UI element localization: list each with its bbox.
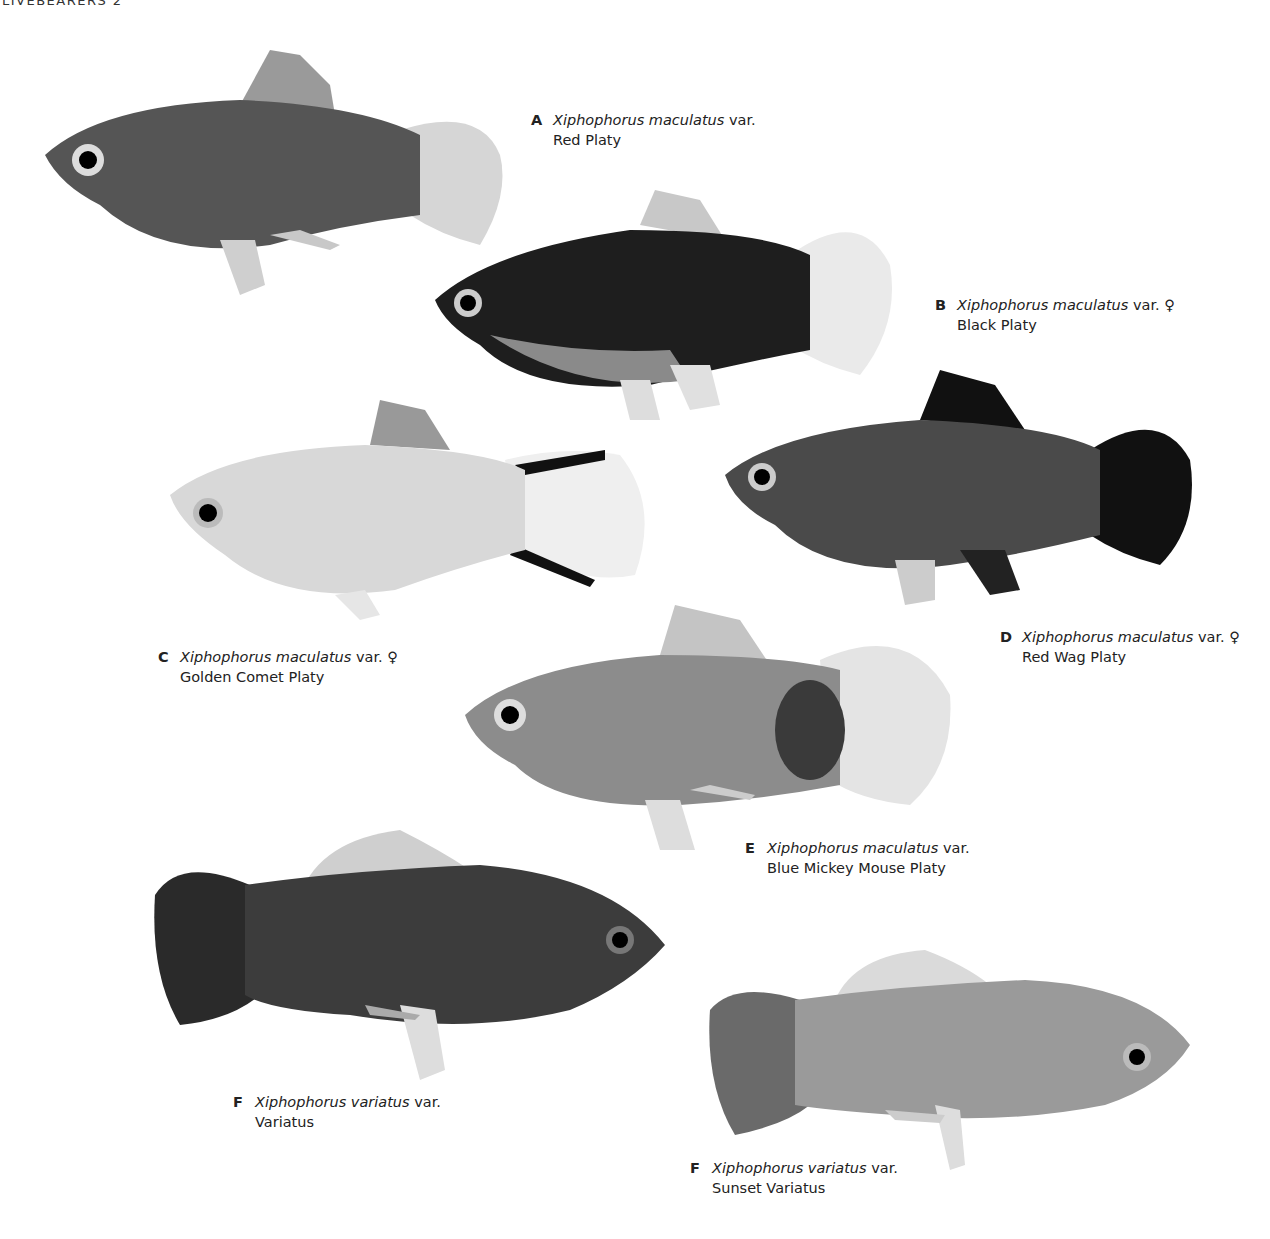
- caption-letter: F: [690, 1158, 712, 1178]
- common-name: Black Platy: [935, 315, 1175, 335]
- common-name: Red Platy: [531, 130, 756, 150]
- species-name: Xiphophorus maculatus: [1022, 629, 1193, 645]
- common-name: Sunset Variatus: [690, 1178, 898, 1198]
- fish-image-blue-mickey-mouse-platy: [460, 595, 960, 860]
- caption-e: EXiphophorus maculatus var. Blue Mickey …: [745, 838, 970, 878]
- variety-abbr: var.: [414, 1094, 441, 1110]
- species-name: Xiphophorus maculatus: [180, 649, 351, 665]
- caption-letter: A: [531, 110, 553, 130]
- common-name: Red Wag Platy: [1000, 647, 1240, 667]
- variety-abbr: var.: [943, 840, 970, 856]
- caption-letter: B: [935, 295, 957, 315]
- fish-image-golden-comet-platy: [165, 395, 660, 625]
- caption-d: DXiphophorus maculatus var. ♀ Red Wag Pl…: [1000, 627, 1240, 667]
- caption-a: AXiphophorus maculatus var. Red Platy: [531, 110, 756, 150]
- fish-image-sunset-variatus: [705, 945, 1195, 1175]
- variety-abbr: var.: [356, 649, 383, 665]
- female-symbol-icon: ♀: [1164, 297, 1175, 313]
- caption-c: CXiphophorus maculatus var. ♀ Golden Com…: [158, 647, 398, 687]
- caption-letter: F: [233, 1092, 255, 1112]
- species-name: Xiphophorus maculatus: [957, 297, 1128, 313]
- common-name: Golden Comet Platy: [158, 667, 398, 687]
- caption-letter: D: [1000, 627, 1022, 647]
- species-name: Xiphophorus variatus: [712, 1160, 867, 1176]
- caption-letter: E: [745, 838, 767, 858]
- species-name: Xiphophorus variatus: [255, 1094, 410, 1110]
- caption-f-variatus: FXiphophorus variatus var. Variatus: [233, 1092, 441, 1132]
- common-name: Blue Mickey Mouse Platy: [745, 858, 970, 878]
- caption-letter: C: [158, 647, 180, 667]
- species-name: Xiphophorus maculatus: [553, 112, 724, 128]
- variety-abbr: var.: [1198, 629, 1225, 645]
- variety-abbr: var.: [871, 1160, 898, 1176]
- fish-image-red-wag-platy: [720, 365, 1200, 610]
- caption-f-sunset-variatus: FXiphophorus variatus var. Sunset Variat…: [690, 1158, 898, 1198]
- variety-abbr: var.: [1133, 297, 1160, 313]
- fish-image-variatus: [150, 825, 670, 1085]
- species-name: Xiphophorus maculatus: [767, 840, 938, 856]
- running-head: LIVEBEARERS 2: [2, 0, 123, 8]
- common-name: Variatus: [233, 1112, 441, 1132]
- female-symbol-icon: ♀: [387, 649, 398, 665]
- variety-abbr: var.: [729, 112, 756, 128]
- female-symbol-icon: ♀: [1229, 629, 1240, 645]
- caption-b: BXiphophorus maculatus var. ♀ Black Plat…: [935, 295, 1175, 335]
